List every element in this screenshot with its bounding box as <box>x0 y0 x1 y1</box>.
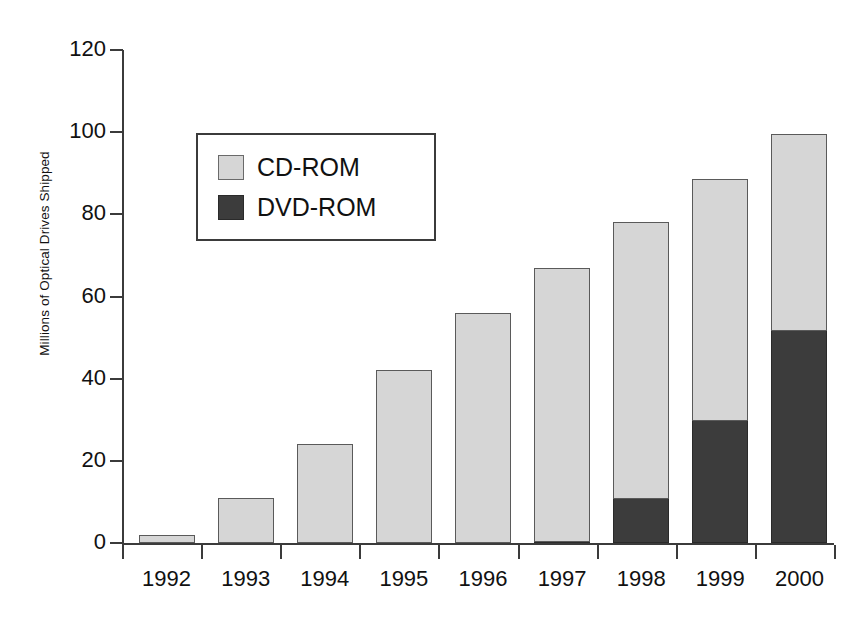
y-axis-tick-label: 40 <box>44 365 106 391</box>
bar-segment-cd-rom <box>692 179 748 421</box>
y-axis-tick <box>110 213 123 215</box>
bar-group <box>455 50 511 543</box>
bar-group <box>613 50 669 543</box>
x-axis-tick <box>755 545 757 559</box>
bar-group <box>534 50 590 543</box>
y-axis-tick-label: 0 <box>44 529 106 555</box>
y-axis-tick <box>110 460 123 462</box>
x-axis-line <box>122 543 834 545</box>
x-axis-tick <box>359 545 361 559</box>
bar-group <box>139 50 195 543</box>
y-axis-tick-label: 100 <box>44 118 106 144</box>
bar-segment-cd-rom <box>376 370 432 543</box>
x-axis-tick <box>280 545 282 559</box>
bar-group <box>692 50 748 543</box>
bar-segment-dvd-rom <box>692 420 748 543</box>
bar-group <box>297 50 353 543</box>
x-axis-tick <box>676 545 678 559</box>
y-axis-tick <box>110 49 123 51</box>
x-axis-tick <box>597 545 599 559</box>
x-axis-tick <box>438 545 440 559</box>
bar-group <box>376 50 432 543</box>
y-axis-tick-labels: 020406080100120 <box>28 0 106 626</box>
y-axis-tick-label: 120 <box>44 36 106 62</box>
bar-segment-cd-rom <box>613 222 669 499</box>
y-axis-tick <box>110 296 123 298</box>
y-axis-tick <box>110 378 123 380</box>
y-axis-tick <box>110 131 123 133</box>
bar-segment-dvd-rom <box>771 329 827 543</box>
x-axis-tick <box>201 545 203 559</box>
bar-segment-cd-rom <box>218 498 274 543</box>
y-axis-tick-label: 20 <box>44 447 106 473</box>
x-axis-tick <box>834 545 836 559</box>
bar-segment-cd-rom <box>455 313 511 543</box>
x-axis-tick <box>518 545 520 559</box>
bar-segment-dvd-rom <box>613 498 669 543</box>
y-axis-tick-label: 60 <box>44 283 106 309</box>
bar-segment-cd-rom <box>297 444 353 543</box>
bar-segment-cd-rom <box>534 268 590 541</box>
y-axis-tick <box>110 542 123 544</box>
bar-group <box>218 50 274 543</box>
bar-segment-cd-rom <box>139 535 195 543</box>
y-axis-tick-label: 80 <box>44 200 106 226</box>
x-axis-tick-label: 2000 <box>753 566 845 592</box>
bar-segment-cd-rom <box>771 134 827 331</box>
x-axis-tick <box>122 545 124 559</box>
optical-drives-shipped-bar-chart: Millions of Optical Drives Shipped 02040… <box>0 0 858 626</box>
bar-group <box>771 50 827 543</box>
